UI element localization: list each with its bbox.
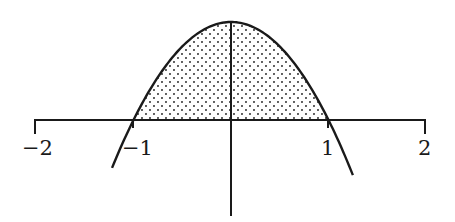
tick-label-pos1: 1 (321, 136, 334, 160)
tick-label-neg2: −2 (22, 136, 53, 160)
parabola-diagram: −2 −1 1 2 (0, 0, 455, 222)
tick-label-neg1: −1 (122, 136, 153, 160)
tick-label-pos2: 2 (418, 136, 431, 160)
